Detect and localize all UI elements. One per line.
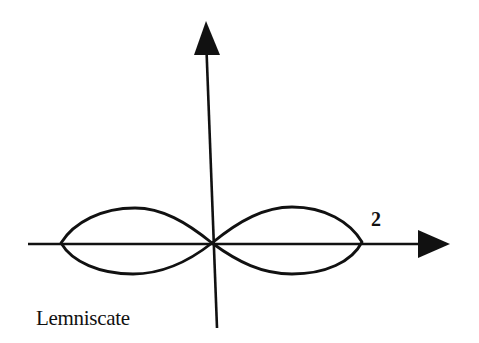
diagram-caption: Lemniscate [36, 306, 130, 331]
lemniscate-right-loop [212, 207, 362, 274]
x-axis-value-label: 2 [371, 208, 381, 231]
y-axis-arrowhead-icon [194, 21, 220, 55]
x-axis-arrowhead-icon [418, 230, 450, 258]
lemniscate-diagram: 2 Lemniscate [0, 0, 479, 343]
lemniscate-left-loop [61, 208, 212, 274]
y-axis [207, 50, 218, 328]
